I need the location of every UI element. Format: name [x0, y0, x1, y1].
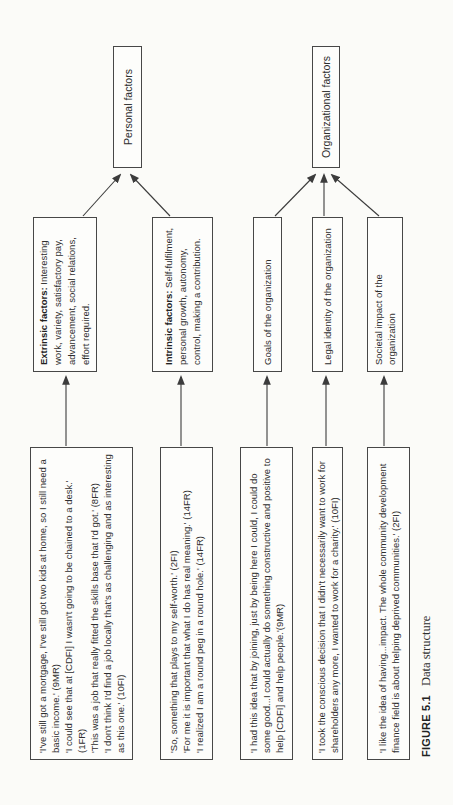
figure-caption-title: Data structure — [419, 616, 433, 686]
arrow-societal-to-organizational — [332, 175, 379, 216]
quote-text: 'I could see that at [CDFI] I wasn't goi… — [62, 454, 88, 753]
theme-lead: Intrinsic factors: — [163, 291, 174, 365]
quote-text: 'I had this idea that by joining, just b… — [247, 454, 286, 753]
arrow-goals-to-organizational — [275, 175, 315, 216]
theme-lead: Extrinsic factors: — [38, 287, 49, 365]
quote-box-goals: 'I had this idea that by joining, just b… — [240, 447, 293, 760]
theme-text: Legal identity of the organization — [321, 224, 334, 365]
quote-text: 'I realized I am a round peg in a round … — [193, 454, 206, 753]
dimension-box-organizational-factors: Organizational factors — [312, 46, 340, 168]
theme-text: Goals of the organization — [261, 224, 274, 365]
quote-box-legal: 'I took the conscious decision that I di… — [312, 447, 343, 760]
quote-text: 'For me it is important that what I do h… — [180, 454, 193, 753]
theme-box-goals: Goals of the organization — [253, 217, 282, 372]
dimension-box-personal-factors: Personal factors — [113, 46, 142, 168]
quote-box-societal: 'I like the idea of having...impact. The… — [367, 447, 410, 760]
theme-box-legal-identity: Legal identity of the organization — [312, 217, 343, 372]
dimension-label: Organizational factors — [320, 56, 332, 158]
figure-caption-number: FIGURE 5.1 — [420, 695, 432, 757]
quote-text: 'I took the conscious decision that I di… — [315, 454, 341, 753]
theme-text: Intrinsic factors: Self-fulfilment, pers… — [162, 224, 204, 365]
figure-data-structure-diagram: 'I've still got a mortgage, I've still g… — [0, 0, 453, 805]
quote-text: 'I don't think I'd find a job locally th… — [101, 454, 127, 753]
theme-box-extrinsic-factors: Extrinsic factors: Interesting work, var… — [33, 217, 97, 372]
quote-box-extrinsic: 'I've still got a mortgage, I've still g… — [30, 447, 133, 760]
dimension-label: Personal factors — [122, 69, 134, 145]
theme-box-intrinsic-factors: Intrinsic factors: Self-fulfilment, pers… — [152, 217, 213, 372]
quote-text: 'So, something that plays to my self-wor… — [167, 454, 180, 753]
quote-text: 'This was a job that really fitted the s… — [88, 454, 101, 753]
theme-text: Extrinsic factors: Interesting work, var… — [37, 224, 93, 365]
theme-text: Societal impact of the organization — [372, 224, 398, 365]
arrow-extrinsic-to-personal — [83, 175, 120, 216]
theme-box-societal-impact: Societal impact of the organization — [367, 217, 403, 372]
scanned-book-page: 'I've still got a mortgage, I've still g… — [0, 0, 453, 805]
quote-text: 'I've still got a mortgage, I've still g… — [36, 454, 62, 753]
figure-caption: FIGURE 5.1Data structure — [416, 497, 434, 757]
quote-box-intrinsic: 'So, something that plays to my self-wor… — [160, 447, 213, 760]
quote-text: 'I like the idea of having...impact. The… — [376, 454, 402, 753]
arrow-intrinsic-to-personal — [131, 175, 170, 216]
